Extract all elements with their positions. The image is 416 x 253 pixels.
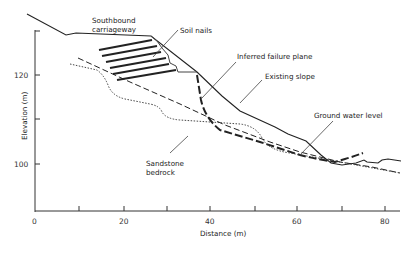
southbound-label-1: Southbound [92, 16, 136, 25]
bedrock-label-1: Sandstone [146, 159, 185, 168]
x-tick-40: 40 [205, 217, 215, 226]
y-tick-120: 120 [14, 71, 29, 80]
x-tick-80: 80 [380, 217, 390, 226]
x-axis-title: Distance (m) [200, 229, 247, 238]
existing-slope-line [27, 14, 401, 165]
bedrock-label-2: bedrock [146, 168, 176, 177]
x-tick-0: 0 [32, 217, 37, 226]
ground-water-label: Ground water level [314, 111, 383, 120]
soil-nails-label: Soil nails [180, 26, 212, 35]
existing-slope-label: Existing slope [265, 72, 315, 81]
southbound-label-2: carriageway [92, 25, 137, 34]
y-axis-title: Elevation (m) [20, 92, 29, 140]
x-tick-60: 60 [292, 217, 302, 226]
x-tick-20: 20 [119, 217, 129, 226]
failure-plane-label: Inferred failure plane [237, 52, 313, 61]
cross-section-diagram: 120 100 0 20 40 60 80 Distance (m) Eleva… [0, 0, 416, 253]
leader-lines [153, 30, 333, 156]
y-tick-100: 100 [14, 160, 29, 169]
